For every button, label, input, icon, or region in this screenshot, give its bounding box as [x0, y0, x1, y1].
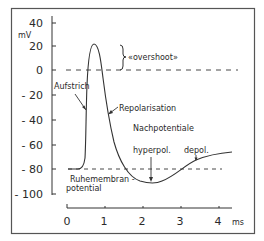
y-tick-label: 20 [29, 40, 43, 53]
y-tick-label: - 60 [22, 139, 43, 152]
aufstrich-label: Aufstrich [54, 82, 90, 91]
hyperpol-arrowhead-icon [149, 177, 153, 182]
y-tick-label: - 100 [15, 188, 43, 201]
y-tick-label: 40 [29, 17, 43, 30]
x-tick-labels: 0 1 2 3 4 [64, 215, 222, 228]
ruhemembran-label-line2: potential [66, 184, 102, 193]
ruhemembran-label-line1: Ruhemembran - [70, 175, 135, 184]
x-tick-label: 4 [215, 215, 222, 228]
y-axis-unit: mV [18, 31, 32, 40]
y-tick-label: - 80 [22, 163, 43, 176]
overshoot-brace-icon [120, 45, 126, 70]
x-tick-label: 1 [101, 215, 108, 228]
x-tick-label: 0 [64, 215, 71, 228]
action-potential-chart: 40 20 0 - 20 - 40 - 60 - 80 - 100 mV 0 1… [0, 0, 264, 241]
y-ticks [52, 23, 56, 194]
aufstrich-arrowhead-icon [82, 106, 86, 111]
nachpotentiale-label: Nachpotentiale [133, 124, 194, 133]
y-tick-label: 0 [36, 64, 43, 77]
x-tick-label: 2 [139, 215, 146, 228]
repolarisation-arrowhead-icon [108, 110, 113, 115]
x-axis-unit: ms [232, 218, 244, 227]
figure-frame [12, 9, 255, 234]
x-tick-label: 3 [177, 215, 184, 228]
overshoot-label: «overshoot» [128, 53, 178, 62]
x-ticks [67, 204, 219, 208]
y-tick-labels: 40 20 0 - 20 - 40 - 60 - 80 - 100 [15, 17, 43, 201]
depol-label: depol. [184, 146, 209, 155]
y-tick-label: - 40 [22, 114, 43, 127]
repolarisation-label: Repolarisation [119, 104, 176, 113]
action-potential-curve [68, 44, 232, 183]
hyperpol-label: hyperpol. [133, 146, 171, 155]
y-tick-label: - 20 [22, 89, 43, 102]
